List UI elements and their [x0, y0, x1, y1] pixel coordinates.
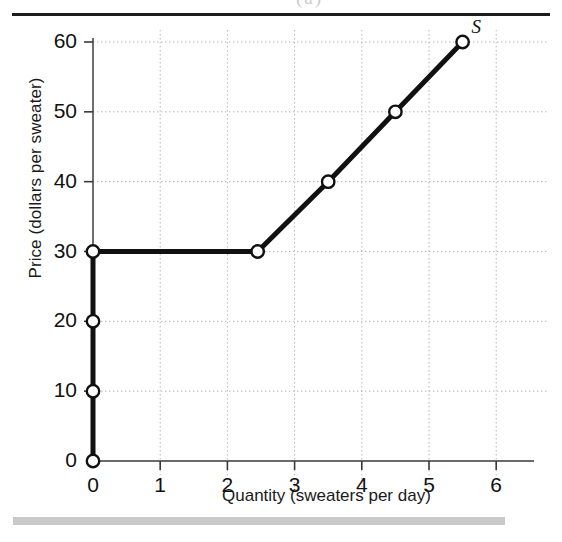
data-point-marker: [251, 245, 263, 257]
chart-plot-area: [0, 0, 562, 542]
data-point-marker: [389, 106, 401, 118]
series-annotation-S: S: [471, 16, 481, 38]
data-point-marker: [87, 245, 99, 257]
data-point-marker: [322, 175, 334, 187]
x-tick-label-0: 0: [78, 473, 108, 497]
x-axis-title: Quantity (sweaters per day): [222, 486, 431, 506]
y-tick-label-10: 10: [37, 378, 77, 402]
x-tick-label-5: 5: [414, 473, 444, 497]
x-tick-label-6: 6: [481, 473, 511, 497]
y-tick-label-20: 20: [37, 308, 77, 332]
x-tick-label-4: 4: [347, 473, 377, 497]
y-tick-label-30: 30: [37, 239, 77, 263]
axis-ticks-group: [84, 42, 496, 470]
y-tick-label-0: 0: [37, 448, 77, 472]
x-tick-label-2: 2: [212, 473, 242, 497]
data-point-marker: [87, 455, 99, 467]
data-point-marker: [456, 36, 468, 48]
x-tick-label-1: 1: [145, 473, 175, 497]
data-point-marker: [87, 315, 99, 327]
supply-curve-chart: Price (dollars per sweater) Quantity (sw…: [0, 0, 562, 542]
bottom-grey-bar: [13, 517, 505, 525]
y-tick-label-40: 40: [37, 169, 77, 193]
gridlines-group: [93, 30, 549, 487]
y-tick-label-60: 60: [37, 29, 77, 53]
x-tick-label-3: 3: [280, 473, 310, 497]
y-tick-label-50: 50: [37, 99, 77, 123]
data-point-marker: [87, 385, 99, 397]
